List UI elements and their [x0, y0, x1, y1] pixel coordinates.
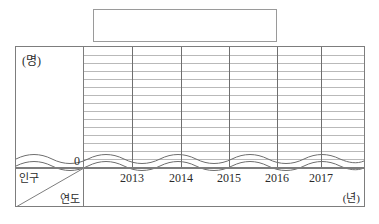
gridline-horizontal [84, 71, 364, 72]
gridline-horizontal [84, 87, 364, 88]
chart-title-box[interactable] [93, 9, 277, 42]
gridline-horizontal [84, 95, 364, 96]
gridline-horizontal [84, 103, 364, 104]
gridline-vertical [229, 47, 230, 167]
corner-year-label: 연도 [60, 190, 80, 206]
plot-area [84, 47, 364, 167]
gridline-horizontal [84, 143, 364, 144]
x-tick-label: 2016 [253, 169, 301, 188]
gridline-horizontal [84, 135, 364, 136]
y-axis-unit-label: (명) [22, 51, 41, 69]
x-tick-label: 2017 [297, 169, 345, 188]
gridline-horizontal [84, 119, 364, 120]
gridline-vertical [277, 47, 278, 167]
gridline-horizontal [84, 127, 364, 128]
x-tick-label: 2014 [157, 169, 205, 188]
gridline-horizontal [84, 111, 364, 112]
x-tick-label: 2015 [205, 169, 253, 188]
gridline-horizontal [84, 151, 364, 152]
corner-population-label: 인구 [19, 169, 39, 185]
chart-title-text [94, 10, 276, 41]
chart-frame: (명) [15, 46, 365, 207]
worksheet-canvas: (명) [0, 0, 379, 224]
x-axis-unit-label: (년) [343, 189, 360, 205]
x-tick-label: 2013 [108, 169, 156, 188]
gridline-vertical [132, 47, 133, 167]
gridline-vertical [321, 47, 322, 167]
x-axis-strip: 인구 연도 2013 2014 2015 2016 2017 (년) [16, 167, 364, 206]
y-axis-unit-cell: (명) [16, 47, 84, 167]
gridline-horizontal [84, 63, 364, 64]
axis-corner-cell: 인구 연도 [16, 168, 84, 207]
gridline-horizontal [84, 55, 364, 56]
gridline-horizontal [84, 159, 364, 160]
x-axis-tick-labels: 2013 2014 2015 2016 2017 [84, 168, 364, 189]
gridline-horizontal [84, 79, 364, 80]
gridline-vertical [181, 47, 182, 167]
